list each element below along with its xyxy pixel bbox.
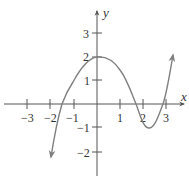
y-tick-label: 3 — [83, 27, 89, 41]
x-tick-label: 1 — [117, 111, 123, 125]
x-tick-label: 3 — [163, 111, 169, 125]
y-tick-label: −2 — [77, 146, 90, 160]
x-tick-label: −2 — [44, 111, 57, 125]
graph: −3 −2 −1 1 2 3 3 2 1 −1 −2 x y — [0, 0, 189, 183]
function-curve — [51, 55, 173, 157]
y-tick-label: 1 — [84, 74, 90, 88]
x-axis-label: x — [180, 89, 187, 104]
y-tick-label: −1 — [77, 121, 90, 135]
x-tick-label: −3 — [21, 111, 34, 125]
y-axis-label: y — [101, 5, 109, 20]
